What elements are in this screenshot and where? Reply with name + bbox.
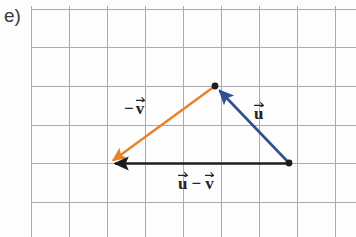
label-neg-v-minus: − <box>124 100 136 117</box>
label-u: u <box>254 101 263 122</box>
label-neg-v: −v <box>124 96 144 117</box>
label-u-symbol-wrap: u <box>254 101 263 122</box>
figure-canvas: e) <box>0 0 356 237</box>
label-u-symbol: u <box>254 104 263 123</box>
label-u-minus-v-left-wrap: u <box>178 171 187 192</box>
label-u-minus-v-right-wrap: v <box>205 171 214 192</box>
label-u-minus-v-left-symbol: u <box>178 174 187 193</box>
label-u-minus-v-right-symbol: v <box>205 174 214 193</box>
label-u-minus-v: u−v <box>178 171 214 192</box>
label-u-minus-v-minus: − <box>187 175 205 192</box>
label-neg-v-symbol-wrap: v <box>136 96 145 117</box>
apex-point-dot <box>212 83 219 90</box>
right-point-dot <box>286 160 293 167</box>
grid-lines <box>31 6 356 237</box>
label-neg-v-symbol: v <box>136 99 145 118</box>
vector-diagram-svg <box>0 0 356 237</box>
